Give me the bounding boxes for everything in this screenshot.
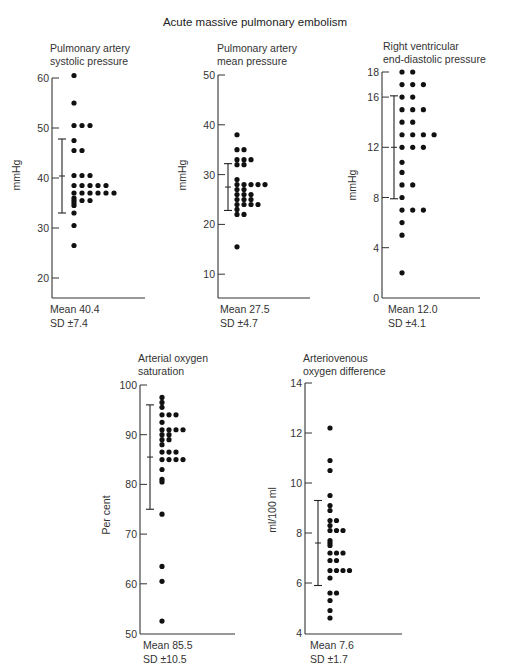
data-point xyxy=(399,69,404,74)
data-point xyxy=(159,512,164,517)
y-tick-label: 12 xyxy=(290,427,302,439)
data-point xyxy=(241,157,246,162)
data-point xyxy=(399,107,404,112)
data-point xyxy=(410,120,415,125)
data-point xyxy=(241,202,246,207)
data-point xyxy=(234,182,239,187)
data-point xyxy=(71,190,76,195)
data-point xyxy=(234,157,239,162)
data-point xyxy=(241,197,246,202)
data-point xyxy=(71,243,76,248)
data-point xyxy=(234,162,239,167)
data-point xyxy=(334,528,339,533)
panel-1: 2030405060mmHg xyxy=(10,72,145,298)
data-point xyxy=(71,210,76,215)
data-point xyxy=(241,192,246,197)
data-point xyxy=(159,449,164,454)
data-point xyxy=(173,412,178,417)
data-point xyxy=(327,590,332,595)
data-point xyxy=(180,427,185,432)
data-point xyxy=(166,412,171,417)
data-point xyxy=(327,543,332,548)
data-point xyxy=(340,568,345,573)
y-axis-label: mmHg xyxy=(176,159,188,190)
panel-4: 5060708090100Per cent xyxy=(100,379,235,640)
data-point xyxy=(399,95,404,100)
y-tick-label: 50 xyxy=(125,628,137,640)
panel-5: 468101214ml/100 ml xyxy=(266,377,402,639)
data-point xyxy=(173,449,178,454)
data-point xyxy=(159,457,164,462)
data-point xyxy=(79,183,84,188)
data-point xyxy=(159,405,164,410)
data-point xyxy=(410,69,415,74)
y-tick-label: 16 xyxy=(367,91,379,103)
data-point xyxy=(159,427,164,432)
data-point xyxy=(166,449,171,454)
data-point xyxy=(79,190,84,195)
y-axis-label: ml/100 ml xyxy=(266,487,278,533)
data-point xyxy=(327,468,332,473)
data-point xyxy=(327,558,332,563)
data-point xyxy=(421,145,426,150)
data-point xyxy=(399,270,404,275)
y-tick-label: 8 xyxy=(373,192,379,204)
data-point xyxy=(399,207,404,212)
y-tick-label: 40 xyxy=(203,119,215,131)
y-axis-label: mmHg xyxy=(10,159,22,190)
data-point xyxy=(71,203,76,208)
y-tick-label: 20 xyxy=(203,218,215,230)
data-point xyxy=(327,458,332,463)
data-point xyxy=(410,207,415,212)
panel-3: 048121618mmHg xyxy=(346,66,480,304)
data-point xyxy=(334,568,339,573)
data-point xyxy=(79,148,84,153)
data-point xyxy=(255,182,260,187)
data-point xyxy=(327,493,332,498)
data-point xyxy=(95,190,100,195)
data-point xyxy=(87,190,92,195)
y-tick-label: 8 xyxy=(296,527,302,539)
data-point xyxy=(255,202,260,207)
data-point xyxy=(234,207,239,212)
y-tick-label: 10 xyxy=(203,268,215,280)
data-point xyxy=(87,123,92,128)
data-point xyxy=(248,197,253,202)
data-point xyxy=(103,190,108,195)
data-point xyxy=(327,523,332,528)
y-tick-label: 4 xyxy=(373,242,379,254)
data-point xyxy=(334,518,339,523)
data-point xyxy=(241,147,246,152)
data-point xyxy=(340,550,345,555)
data-point xyxy=(79,198,84,203)
data-point xyxy=(166,432,171,437)
y-tick-label: 0 xyxy=(373,292,379,304)
data-point xyxy=(399,195,404,200)
data-point xyxy=(410,82,415,87)
y-tick-label: 60 xyxy=(125,578,137,590)
data-point xyxy=(180,457,185,462)
data-point xyxy=(421,107,426,112)
data-point xyxy=(234,202,239,207)
data-point xyxy=(111,190,116,195)
data-point xyxy=(334,590,339,595)
data-point xyxy=(399,145,404,150)
data-point xyxy=(234,132,239,137)
data-point xyxy=(432,132,437,137)
data-point xyxy=(166,457,171,462)
data-point xyxy=(327,550,332,555)
data-point xyxy=(410,182,415,187)
data-point xyxy=(241,187,246,192)
data-point xyxy=(79,173,84,178)
data-point xyxy=(327,503,332,508)
data-point xyxy=(327,615,332,620)
data-point xyxy=(327,598,332,603)
data-point xyxy=(248,157,253,162)
data-point xyxy=(410,145,415,150)
data-point xyxy=(71,100,76,105)
data-point xyxy=(327,518,332,523)
data-point xyxy=(340,528,345,533)
data-point xyxy=(248,202,253,207)
data-point xyxy=(262,182,267,187)
data-point xyxy=(159,579,164,584)
